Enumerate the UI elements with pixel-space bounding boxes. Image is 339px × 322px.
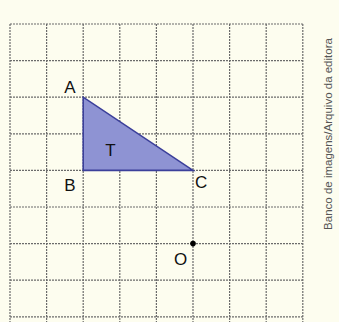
image-credit: Banco de imagens/Arquivo da editora [322,38,334,230]
point-label-O: O [174,250,187,269]
grid-diagram: A B C T O [0,0,339,322]
vertex-label-B: B [64,176,75,195]
triangle-label-T: T [105,141,115,160]
square-grid [10,24,303,322]
point-O [190,241,196,247]
vertex-label-A: A [64,78,76,97]
vertex-label-C: C [195,173,207,192]
